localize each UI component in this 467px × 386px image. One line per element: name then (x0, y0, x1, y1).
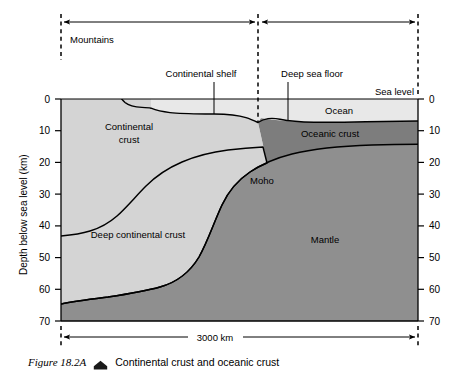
figure-root: 0 10 20 30 40 50 60 70 0 10 20 30 40 50 … (0, 0, 467, 386)
label-mantle: Mantle (311, 234, 340, 245)
y-tick-label-left-70: 70 (39, 316, 51, 327)
label-mountains: Mountains (70, 34, 114, 45)
label-continental-crust-line2: crust (119, 134, 140, 145)
y-tick-label-left-10: 10 (39, 125, 51, 136)
label-continental-crust-line1: Continental (105, 121, 153, 132)
cross-section-diagram: 0 10 20 30 40 50 60 70 0 10 20 30 40 50 … (0, 0, 467, 386)
label-continental-shelf: Continental shelf (166, 68, 237, 79)
label-deep-continental-crust: Deep continental crust (91, 229, 186, 240)
pentagon-marker-icon (93, 357, 108, 368)
y-tick-label-right-50: 50 (429, 252, 441, 263)
y-tick-label-left-0: 0 (44, 94, 50, 105)
y-tick-label-left-30: 30 (39, 189, 51, 200)
figure-number-label: Figure 18.2A (28, 356, 86, 368)
y-tick-label-right-60: 60 (429, 284, 441, 295)
figure-caption-text: Continental crust and oceanic crust (115, 356, 279, 368)
y-tick-label-left-40: 40 (39, 220, 51, 231)
y-tick-label-right-20: 20 (429, 157, 441, 168)
figure-caption: Figure 18.2A Continental crust and ocean… (28, 356, 279, 368)
label-deep-sea-floor: Deep sea floor (281, 68, 343, 79)
y-tick-label-left-50: 50 (39, 252, 51, 263)
label-sea-level: Sea level (375, 86, 414, 97)
scale-bar-label: 3000 km (197, 332, 234, 343)
y-axis-title: Depth below sea level (km) (18, 154, 29, 275)
y-tick-label-right-10: 10 (429, 125, 441, 136)
y-tick-label-right-0: 0 (429, 94, 435, 105)
y-tick-label-left-20: 20 (39, 157, 51, 168)
label-ocean: Ocean (325, 105, 353, 116)
y-tick-label-right-30: 30 (429, 189, 441, 200)
label-moho: Moho (250, 175, 274, 186)
y-tick-label-left-60: 60 (39, 284, 51, 295)
label-oceanic-crust: Oceanic crust (301, 128, 359, 139)
y-tick-label-right-40: 40 (429, 220, 441, 231)
y-tick-label-right-70: 70 (429, 316, 441, 327)
